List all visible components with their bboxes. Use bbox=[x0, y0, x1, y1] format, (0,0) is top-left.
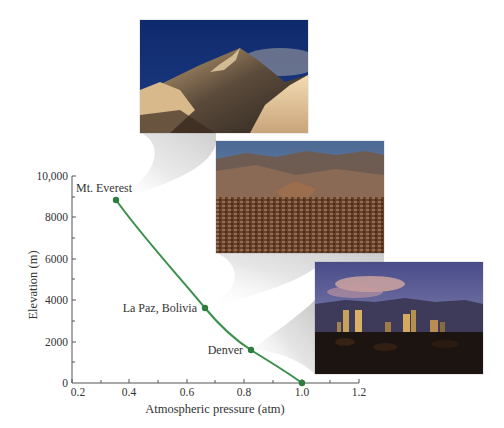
la-paz-photo bbox=[216, 141, 384, 253]
y-tick-label: 0 bbox=[62, 377, 68, 389]
label-denver: Denver bbox=[208, 343, 243, 357]
x-tick-label: 1.0 bbox=[295, 386, 310, 398]
x-axis bbox=[72, 379, 359, 383]
y-tick-label: 4000 bbox=[45, 294, 68, 306]
y-tick-label: 6000 bbox=[45, 253, 68, 265]
label-everest: Mt. Everest bbox=[76, 181, 133, 195]
y-axis-title: Elevation (m) bbox=[26, 250, 40, 319]
data-point-sea-level bbox=[299, 380, 305, 386]
chart-figure: 10,000 8000 6000 4000 2000 0 0.2 0.4 0.6… bbox=[0, 0, 504, 428]
y-axis bbox=[72, 176, 76, 383]
denver-photo bbox=[315, 262, 483, 374]
x-tick-label: 1.2 bbox=[352, 386, 367, 398]
data-point-denver bbox=[248, 347, 254, 353]
mt-everest-photo bbox=[140, 20, 308, 133]
x-tick-label: 0.8 bbox=[237, 386, 252, 398]
y-tick-label: 10,000 bbox=[36, 170, 68, 183]
y-tick-label: 8000 bbox=[45, 211, 68, 223]
x-tick-label: 0.4 bbox=[122, 386, 137, 398]
x-tick-label: 0.2 bbox=[71, 386, 86, 398]
x-tick-label: 0.6 bbox=[180, 386, 195, 398]
denver-connector-beam bbox=[252, 300, 315, 374]
y-tick-label: 2000 bbox=[45, 336, 68, 348]
label-lapaz: La Paz, Bolivia bbox=[123, 301, 198, 315]
everest-connector-beam bbox=[118, 133, 216, 199]
data-point-lapaz bbox=[202, 305, 208, 311]
data-point-everest bbox=[113, 197, 119, 203]
x-axis-title: Atmospheric pressure (atm) bbox=[145, 402, 285, 416]
